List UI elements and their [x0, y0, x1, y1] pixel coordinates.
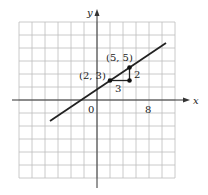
x-axis-label: x — [193, 95, 199, 106]
point-2-3 — [108, 78, 113, 83]
coordinate-plane: x y 0 8 (2, 3) (5, 5) 3 2 — [0, 0, 208, 195]
point-5-3 — [127, 78, 132, 83]
y-axis-label: y — [86, 7, 93, 18]
point-5-5 — [127, 65, 132, 70]
point-label-5-5: (5, 5) — [106, 52, 133, 63]
rise-label: 2 — [134, 69, 140, 80]
point-label-2-3: (2, 3) — [79, 70, 106, 81]
run-label: 3 — [115, 83, 121, 94]
origin-label: 0 — [88, 104, 94, 115]
x-tick-label-8: 8 — [145, 104, 151, 115]
y-axis-arrow-icon — [95, 9, 100, 16]
x-axis-arrow-icon — [183, 98, 190, 103]
